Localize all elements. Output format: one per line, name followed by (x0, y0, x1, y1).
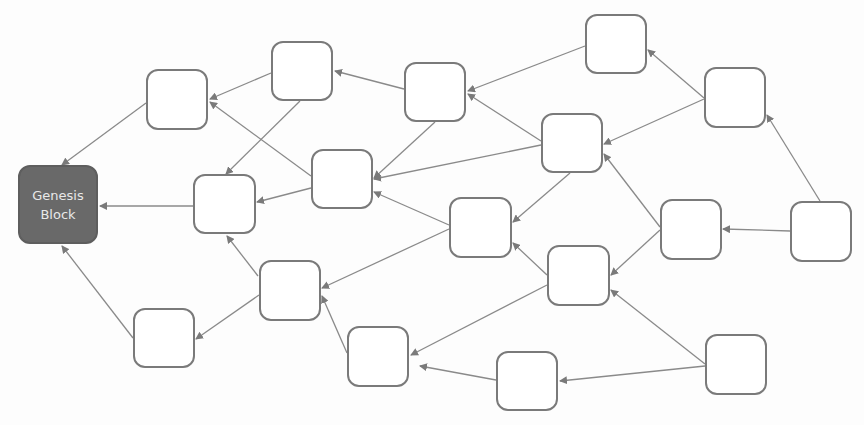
block-node-f (193, 174, 256, 234)
block-node-h (541, 113, 603, 173)
edge-k-to-e (767, 115, 820, 201)
block-node-l (259, 260, 321, 321)
edge-c-to-g (374, 122, 435, 178)
edge-m-to-i (513, 243, 547, 275)
block-node-g (311, 149, 373, 209)
edge-h-to-g (374, 145, 541, 179)
edge-h-to-i (513, 173, 570, 222)
edge-l-to-f (227, 236, 258, 276)
genesis-label-line1: Genesis (32, 186, 83, 205)
block-node-i (449, 197, 512, 258)
block-node-b (271, 41, 333, 101)
edge-d-to-c (468, 46, 585, 91)
edge-e-to-h (604, 99, 704, 144)
block-node-d (585, 14, 647, 74)
edge-l-to-n (196, 295, 259, 339)
block-node-p (496, 351, 558, 411)
blockchain-diagram: Genesis Block (0, 0, 864, 425)
edge-n-to-genesis (62, 246, 133, 338)
block-node-m (547, 245, 610, 306)
edge-o-to-l (322, 296, 347, 353)
edge-g-to-a (210, 102, 311, 176)
edge-j-to-h (604, 154, 660, 227)
block-node-q (705, 334, 767, 395)
block-node-e (704, 67, 766, 128)
genesis-block-node: Genesis Block (18, 165, 98, 244)
edge-q-to-m (611, 290, 705, 364)
edge-b-to-f (226, 101, 300, 174)
block-node-o (347, 326, 409, 387)
edge-m-to-o (411, 285, 547, 355)
edge-b-to-a (210, 73, 271, 99)
edge-e-to-d (648, 50, 704, 98)
edge-i-to-l (322, 229, 449, 288)
edge-c-to-b (335, 71, 404, 89)
block-node-a (146, 69, 208, 130)
edge-k-to-j (723, 229, 790, 231)
edge-i-to-g (374, 192, 449, 225)
edge-a-to-genesis (62, 103, 146, 165)
edge-j-to-m (611, 230, 660, 275)
edge-p-to-o (420, 366, 496, 380)
edge-q-to-p (560, 366, 705, 381)
block-node-k (790, 201, 852, 262)
edge-h-to-c (468, 94, 541, 141)
block-node-n (133, 308, 195, 368)
genesis-label-line2: Block (40, 205, 75, 224)
edge-g-to-f (257, 188, 311, 202)
block-node-c (404, 62, 466, 122)
block-node-j (660, 199, 722, 260)
